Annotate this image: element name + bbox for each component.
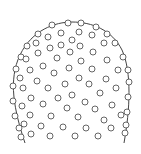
interior-circle: [27, 112, 33, 118]
interior-circle: [89, 32, 95, 38]
interior-circle: [101, 117, 107, 123]
interior-circle: [78, 58, 84, 64]
edge-circle: [124, 109, 130, 115]
interior-circle: [82, 99, 88, 105]
interior-circle: [27, 67, 33, 73]
interior-circle: [21, 121, 27, 127]
edge-circle: [112, 40, 118, 46]
interior-circle: [76, 75, 82, 81]
interior-circle: [95, 133, 101, 139]
interior-circle: [76, 29, 82, 35]
edge-circle: [125, 94, 131, 100]
edge-circle: [10, 98, 16, 104]
interior-circle: [92, 106, 98, 112]
interior-circle: [83, 125, 89, 131]
edge-circle: [93, 24, 99, 30]
edge-circle: [120, 54, 126, 60]
edge-circle: [123, 122, 129, 128]
edge-circle: [104, 31, 110, 37]
interior-circle: [62, 81, 68, 87]
interior-circle: [40, 101, 46, 107]
interior-circle: [45, 85, 51, 91]
interior-circle: [108, 125, 114, 131]
interior-circle: [28, 95, 34, 101]
interior-circle: [47, 45, 53, 51]
interior-circle: [60, 124, 66, 130]
edge-circle: [12, 113, 18, 119]
interior-circle: [109, 102, 115, 108]
interior-circle: [69, 92, 75, 98]
interior-circle: [48, 113, 54, 119]
edge-circle: [65, 20, 71, 26]
edge-circle: [35, 31, 41, 37]
interior-circle: [55, 95, 61, 101]
interior-circle: [34, 78, 40, 84]
interior-circle: [54, 55, 60, 61]
interior-circle: [51, 70, 57, 76]
interior-circle: [40, 63, 46, 69]
interior-circle: [89, 66, 95, 72]
edge-circle: [78, 20, 84, 26]
edge-circle: [126, 79, 132, 85]
interior-circle: [115, 67, 121, 73]
edge-circle: [16, 125, 22, 131]
edge-circle: [49, 22, 55, 28]
interior-circle: [113, 85, 119, 91]
edge-circle: [13, 66, 19, 72]
interior-circle: [47, 133, 53, 139]
interior-circle: [118, 112, 124, 118]
interior-circle: [19, 103, 25, 109]
interior-circle: [58, 42, 64, 48]
interior-circle: [67, 49, 73, 55]
interior-circle: [20, 85, 26, 91]
edge-circle: [122, 130, 128, 136]
interior-circle: [66, 65, 72, 71]
dome-dot-diagram: [0, 0, 141, 154]
interior-circle: [90, 49, 96, 55]
edge-circle: [24, 43, 30, 49]
interior-circle: [58, 30, 64, 36]
interior-circle: [75, 114, 81, 120]
interior-circle: [69, 37, 75, 43]
interior-circle: [17, 75, 23, 81]
interior-circle: [35, 50, 41, 56]
interior-circle: [103, 76, 109, 82]
edge-circle: [18, 134, 24, 140]
interior-circle: [104, 57, 110, 63]
interior-circle: [45, 34, 51, 40]
interior-circle: [97, 90, 103, 96]
interior-circle: [23, 56, 29, 62]
interior-circle: [101, 40, 107, 46]
interior-circle: [33, 40, 39, 46]
interior-circle: [72, 133, 78, 139]
interior-circle: [28, 131, 34, 137]
interior-circle: [64, 105, 70, 111]
edge-circle: [10, 83, 16, 89]
edge-circle: [125, 67, 131, 73]
interior-circle: [86, 81, 92, 87]
interior-circle: [38, 123, 44, 129]
interior-circle: [77, 43, 83, 49]
